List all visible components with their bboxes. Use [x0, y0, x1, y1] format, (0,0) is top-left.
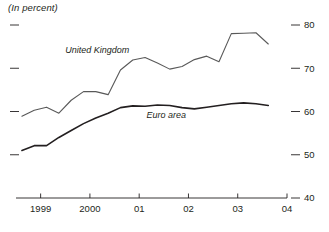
y-tick-label-70: 70 — [304, 63, 315, 74]
x-tick-label-04: 04 — [282, 203, 293, 214]
x-tick-label-01: 01 — [134, 203, 145, 214]
x-axis-tick-labels: 1999200001020304 — [30, 203, 292, 214]
y-axis-left-ticks — [10, 25, 19, 155]
series-line-euro-area — [22, 103, 268, 151]
y-axis-right-tick-labels: 8070605040 — [304, 19, 315, 203]
x-tick-label-1999: 1999 — [30, 203, 51, 214]
y-tick-label-50: 50 — [304, 149, 315, 160]
y-tick-label-60: 60 — [304, 106, 315, 117]
line-chart-plot: 8070605040 1999200001020304 United Kingd… — [0, 0, 329, 232]
series-annotation-euro-area: Euro area — [147, 110, 187, 120]
x-tick-label-03: 03 — [232, 203, 243, 214]
data-series-group — [22, 33, 268, 151]
x-tick-label-2000: 2000 — [79, 203, 100, 214]
x-tick-label-02: 02 — [183, 203, 194, 214]
y-tick-label-80: 80 — [304, 19, 315, 30]
x-axis-ticks — [41, 194, 287, 199]
y-tick-label-40: 40 — [304, 192, 315, 203]
chart-figure: (In percent) 8070605040 1999200001020304… — [0, 0, 329, 232]
series-annotations-group: United KingdomEuro area — [65, 45, 186, 120]
y-axis-right-ticks — [291, 25, 300, 198]
series-annotation-united-kingdom: United Kingdom — [65, 45, 130, 55]
